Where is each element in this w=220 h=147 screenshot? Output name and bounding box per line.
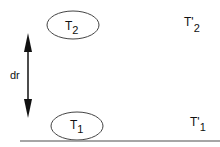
ellipse-t1-group: T1 [51,112,103,140]
label-t2: T2 [65,19,78,36]
arrow-label-dr: dr [10,69,20,81]
label-t-prime-2: T'2 [184,15,200,34]
ellipse-t2-group: T2 [47,11,99,39]
label-t1: T1 [70,118,83,135]
label-t-prime-1: T'1 [190,115,206,133]
double-arrow-icon [24,33,32,118]
diagram-canvas: T2 T'2 dr T1 T'1 [0,0,220,147]
